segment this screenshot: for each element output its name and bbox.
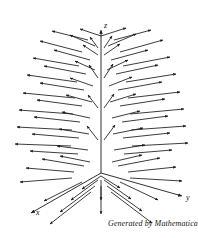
axis-label-y: y <box>186 194 190 202</box>
field-vector <box>27 75 77 82</box>
field-vector <box>66 95 92 102</box>
field-vector <box>37 100 82 106</box>
field-vector <box>54 50 90 60</box>
field-vector <box>104 44 120 55</box>
field-vector <box>116 65 158 74</box>
field-vector <box>40 41 82 52</box>
axis-x-line <box>31 173 101 213</box>
field-vector <box>130 178 182 181</box>
field-vector <box>128 92 180 98</box>
field-vector <box>120 40 163 52</box>
field-vector <box>62 112 90 118</box>
field-vector <box>114 145 145 150</box>
field-vector <box>123 57 170 66</box>
field-vector <box>128 167 176 172</box>
field-vector <box>26 168 74 172</box>
field-vector <box>33 58 79 66</box>
vector-field-arrows <box>15 28 188 224</box>
field-vector <box>19 110 73 114</box>
field-vector <box>124 150 172 154</box>
generated-by-caption: Generated by Mathematica <box>108 219 198 228</box>
field-vector <box>123 133 170 138</box>
mathematica-vector-field-figure: z y x Generated by Mathematica <box>0 0 198 238</box>
field-vector <box>30 151 78 154</box>
field-vector <box>111 50 148 60</box>
field-vector <box>114 30 151 40</box>
field-vector <box>20 178 72 182</box>
field-vector <box>50 192 91 224</box>
field-vector <box>90 37 98 48</box>
field-vector <box>34 117 80 122</box>
field-vector <box>80 29 101 36</box>
axis-label-z: z <box>104 22 107 30</box>
field-vector <box>120 99 165 106</box>
field-vector <box>70 78 93 86</box>
field-vector <box>57 146 88 150</box>
field-vector <box>110 94 136 102</box>
axis-label-x: x <box>36 209 40 217</box>
field-vector <box>60 156 90 162</box>
field-vector <box>42 159 84 166</box>
field-vector <box>89 65 98 78</box>
field-vector <box>126 74 176 82</box>
field-vector <box>104 36 112 48</box>
vector-field-canvas <box>0 0 198 238</box>
field-vector <box>122 116 168 122</box>
field-vector <box>118 82 162 90</box>
field-vector <box>108 34 136 46</box>
field-vector <box>120 182 158 200</box>
field-vector <box>104 125 115 140</box>
field-vector <box>131 126 186 130</box>
field-vector <box>44 66 86 74</box>
field-vector <box>112 111 140 118</box>
field-vector <box>87 126 98 140</box>
field-vector <box>40 83 84 90</box>
field-vector <box>83 45 98 55</box>
field-vector <box>113 128 143 134</box>
field-vector <box>112 155 142 162</box>
field-vector <box>15 144 71 146</box>
field-vector <box>44 182 82 201</box>
field-vector <box>104 64 113 78</box>
field-vector <box>32 134 79 138</box>
field-vector <box>104 180 131 199</box>
field-vector <box>52 31 88 40</box>
coordinate-axes <box>31 30 182 213</box>
field-vector <box>59 129 89 134</box>
